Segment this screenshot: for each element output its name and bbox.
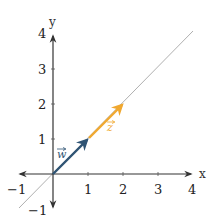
- x-tick-label: 4: [188, 182, 196, 197]
- svg-text:z: z: [106, 121, 113, 134]
- x-axis-label: x: [199, 167, 206, 181]
- x-tick-label: 3: [154, 182, 162, 197]
- y-axis-label: y: [48, 15, 56, 29]
- y-tick-label: 4: [38, 26, 46, 41]
- y-tick-label: 1: [38, 132, 46, 147]
- y-tick-label: −1: [28, 203, 47, 218]
- y-tick-label: 2: [38, 97, 46, 112]
- x-tick-label: 1: [84, 182, 92, 197]
- vector-w-label: w: [57, 148, 67, 162]
- vector-z-arrow: [89, 105, 122, 138]
- y-tick-label: 3: [38, 62, 46, 77]
- vector-z-label: z: [106, 121, 115, 135]
- svg-text:w: w: [57, 148, 67, 161]
- x-tick-label: −1: [7, 182, 26, 197]
- vector-diagram: −1 1 2 3 4 −1 1 2 3 4 x y w z: [0, 0, 220, 222]
- x-tick-label: 2: [119, 182, 127, 197]
